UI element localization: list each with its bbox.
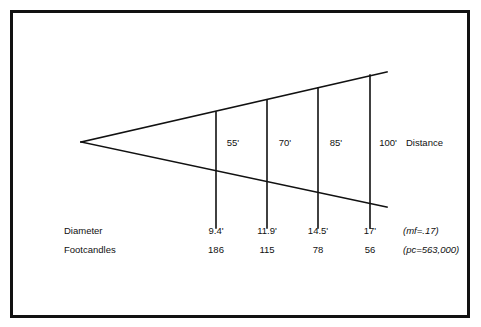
beam-upper-edge-line xyxy=(81,72,387,142)
distance-label-55: 55' xyxy=(227,138,239,148)
note-multiplying-factor: (mf=.17) xyxy=(403,226,439,236)
diameter-value-55: 9.4' xyxy=(208,226,223,236)
diameter-value-85: 14.5' xyxy=(308,226,328,236)
distance-label-70: 70' xyxy=(279,138,291,148)
figure-canvas: 55' 70' 85' 100' Distance Diameter Footc… xyxy=(0,0,481,327)
footcandles-value-55: 186 xyxy=(208,245,224,255)
beam-cone-diagram xyxy=(0,0,481,327)
note-peak-candela: (pc=563,000) xyxy=(403,245,459,255)
distance-label-85: 85' xyxy=(330,138,342,148)
diameter-value-100: 17' xyxy=(364,226,376,236)
row-label-diameter: Diameter xyxy=(64,226,103,236)
axis-label-distance: Distance xyxy=(406,138,443,148)
footcandles-value-85: 78 xyxy=(313,245,324,255)
footcandles-value-100: 56 xyxy=(365,245,376,255)
footcandles-value-70: 115 xyxy=(259,245,274,255)
distance-label-100: 100' xyxy=(379,138,397,148)
diameter-value-70: 11.9' xyxy=(257,226,277,236)
row-label-footcandles: Footcandles xyxy=(64,245,116,255)
beam-lower-edge-line xyxy=(81,142,387,207)
